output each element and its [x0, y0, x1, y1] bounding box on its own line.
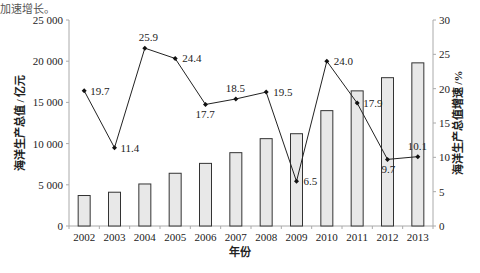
x-tick-label: 2006 — [195, 231, 218, 243]
x-tick-label: 2009 — [286, 231, 309, 243]
left-tick-label: 25 000 — [33, 14, 64, 26]
growth-line — [84, 48, 418, 181]
x-tick-label: 2004 — [134, 231, 157, 243]
data-label: 10.1 — [408, 140, 427, 152]
right-tick-label: 30 — [439, 14, 451, 26]
x-tick-label: 2012 — [377, 231, 399, 243]
bar — [78, 196, 90, 226]
bar — [169, 173, 181, 226]
line-marker — [82, 88, 87, 93]
bar — [260, 139, 272, 226]
left-tick-label: 10 000 — [33, 138, 64, 150]
right-tick-label: 25 — [439, 48, 451, 60]
data-label: 17.7 — [196, 108, 216, 120]
right-tick-label: 15 — [439, 117, 451, 129]
bar — [109, 192, 121, 226]
left-axis-title: 海洋生产总值 / 亿元 — [13, 75, 26, 172]
x-tick-label: 2011 — [346, 231, 368, 243]
data-label: 17.9 — [363, 97, 383, 109]
left-tick-label: 20 000 — [33, 55, 64, 67]
right-tick-label: 0 — [439, 220, 445, 232]
line-marker — [142, 46, 147, 51]
line-marker — [112, 145, 117, 150]
data-label: 6.5 — [304, 175, 318, 187]
data-label: 24.4 — [182, 52, 202, 64]
data-label: 24.0 — [334, 55, 354, 67]
data-label: 19.5 — [273, 86, 293, 98]
x-tick-label: 2002 — [73, 231, 95, 243]
bar — [230, 153, 242, 226]
data-label: 25.9 — [139, 31, 159, 43]
x-tick-label: 2008 — [255, 231, 278, 243]
bar-line-chart: 05 00010 00015 00020 00025 0000510152025… — [0, 0, 480, 273]
x-tick-label: 2003 — [104, 231, 127, 243]
right-tick-label: 5 — [439, 186, 445, 198]
left-tick-label: 5 000 — [38, 179, 63, 191]
right-axis-title: 海洋生产总值增速 /% — [451, 71, 464, 176]
bar — [139, 184, 151, 226]
right-tick-label: 10 — [439, 151, 451, 163]
bar — [200, 163, 212, 226]
data-label: 11.4 — [121, 142, 140, 154]
x-axis-title: 年份 — [229, 245, 252, 258]
left-tick-label: 0 — [58, 220, 64, 232]
line-marker — [233, 96, 238, 101]
right-tick-label: 20 — [439, 83, 451, 95]
x-tick-label: 2007 — [225, 231, 248, 243]
x-tick-label: 2013 — [407, 231, 430, 243]
x-tick-label: 2010 — [316, 231, 339, 243]
x-tick-label: 2005 — [164, 231, 187, 243]
data-label: 9.7 — [382, 163, 396, 175]
data-label: 18.5 — [226, 82, 246, 94]
bar — [321, 111, 333, 226]
left-tick-label: 15 000 — [33, 96, 64, 108]
line-marker — [264, 90, 269, 95]
data-label: 19.7 — [90, 85, 110, 97]
